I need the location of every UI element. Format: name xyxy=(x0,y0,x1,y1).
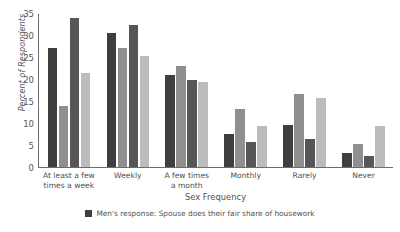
x-tick-label: Rarely xyxy=(275,171,334,191)
y-tick-label: 0 xyxy=(29,164,34,173)
y-axis-title: Percent of Respondents xyxy=(18,0,27,133)
x-tick-label-line: At least a few xyxy=(40,171,97,181)
bar xyxy=(107,33,117,167)
bar xyxy=(342,153,352,167)
x-tick-label: At least a fewtimes a week xyxy=(39,171,98,191)
bar xyxy=(48,48,58,167)
bar-group xyxy=(216,14,275,167)
bar-group xyxy=(98,14,157,167)
y-tick-label: 35 xyxy=(23,10,34,19)
bar xyxy=(224,134,234,167)
x-axis-line xyxy=(38,167,393,168)
bar xyxy=(305,139,315,166)
x-tick-label: A few timesa month xyxy=(157,171,216,191)
bar xyxy=(118,48,128,167)
bar-groups xyxy=(39,14,393,167)
y-tick-label: 15 xyxy=(23,98,34,107)
bar xyxy=(198,82,208,166)
x-tick-labels: At least a fewtimes a weekWeeklyA few ti… xyxy=(39,171,393,191)
bar xyxy=(129,25,139,166)
bar-group xyxy=(157,14,216,167)
bar xyxy=(246,142,256,167)
x-tick-label-line: Monthly xyxy=(217,171,274,181)
bar-group xyxy=(334,14,393,167)
bar xyxy=(375,126,385,167)
x-tick-label: Never xyxy=(334,171,393,191)
x-tick-label-line: a month xyxy=(158,181,215,191)
y-tick-label: 10 xyxy=(23,120,34,129)
bar xyxy=(81,73,91,166)
x-tick-label-line: Never xyxy=(335,171,392,181)
bar xyxy=(283,125,293,166)
x-tick-label-line: times a week xyxy=(40,181,97,191)
x-axis-title: Sex Frequency xyxy=(38,192,393,202)
bar-chart: Percent of Respondents 05101520253035 At… xyxy=(0,0,400,232)
bar xyxy=(70,18,80,166)
bar xyxy=(187,80,197,166)
x-tick-label-line: Rarely xyxy=(276,171,333,181)
y-tick-label: 20 xyxy=(23,76,34,85)
bar xyxy=(59,106,69,166)
bar xyxy=(140,56,150,166)
bar-group xyxy=(39,14,98,167)
bar-group xyxy=(275,14,334,167)
y-tick-label: 30 xyxy=(23,32,34,41)
bar xyxy=(294,94,304,167)
bar xyxy=(364,156,374,167)
legend-swatch xyxy=(85,210,92,217)
bar xyxy=(235,109,245,167)
plot-area: 05101520253035 xyxy=(38,14,393,168)
chart-legend: Men's response: Spouse does their fair s… xyxy=(0,207,400,219)
y-tick-label: 5 xyxy=(29,142,34,151)
bar xyxy=(165,75,175,167)
y-tick-label: 25 xyxy=(23,54,34,63)
x-tick-label: Weekly xyxy=(98,171,157,191)
legend-label: Men's response: Spouse does their fair s… xyxy=(96,209,314,218)
bar xyxy=(176,66,186,166)
bar xyxy=(353,144,363,167)
bar xyxy=(316,98,326,167)
bar xyxy=(257,126,267,167)
legend-item[interactable]: Men's response: Spouse does their fair s… xyxy=(0,207,400,219)
x-tick-label-line: Weekly xyxy=(99,171,156,181)
x-tick-label: Monthly xyxy=(216,171,275,191)
x-tick-label-line: A few times xyxy=(158,171,215,181)
